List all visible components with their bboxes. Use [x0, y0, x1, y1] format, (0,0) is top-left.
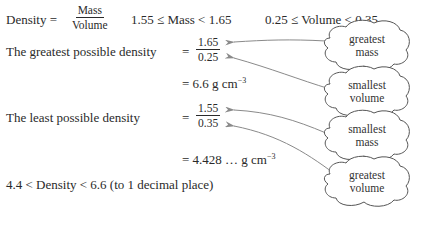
cloud-line: mass	[322, 136, 412, 149]
cloud-line: greatest	[322, 33, 412, 46]
cloud-label-greatest-volume: greatest volume	[322, 169, 412, 195]
cloud-label-smallest-volume: smallest volume	[322, 79, 412, 105]
cloud-line: volume	[322, 182, 412, 195]
arrow-smallest-volume	[234, 58, 330, 89]
cloud-line: smallest	[322, 123, 412, 136]
cloud-line: greatest	[322, 169, 412, 182]
cloud-label-greatest-mass: greatest mass	[322, 33, 412, 59]
cloud-line: volume	[322, 92, 412, 105]
cloud-line: smallest	[322, 79, 412, 92]
cloud-label-smallest-mass: smallest mass	[322, 123, 412, 149]
arrow-greatest-mass	[234, 40, 326, 42]
cloud-line: mass	[322, 46, 412, 59]
